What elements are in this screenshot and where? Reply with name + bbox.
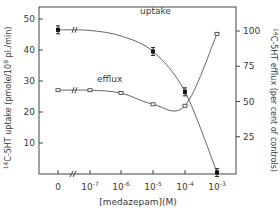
series-line-efflux [58,34,217,111]
y-left-tick-label: 50 [24,14,36,24]
y-left-tick-label: 40 [24,45,36,55]
x-tick-label: 10-3 [208,180,226,192]
series-label-efflux: efflux [97,74,123,84]
axis-ticks: 010-710-610-510-410-31020304050255075100 [24,14,261,192]
y-left-tick-label: 30 [24,76,36,86]
data-point-efflux [183,104,187,107]
y-left-tick-label: 20 [24,107,36,117]
y-right-tick-label: 50 [243,97,255,107]
y-axis-left-label: 14C-5HT uptake (pmole/108 pl./min) [2,27,13,170]
x-tick-label: 10-4 [176,180,194,192]
svg-text:14C-5HT uptake (pmole/108 pl./: 14C-5HT uptake (pmole/108 pl./min) [2,27,13,170]
series-label-uptake: uptake [140,6,171,16]
x-tick-label: 0 [55,182,61,192]
svg-text:14C-5HT efflux (per cent of co: 14C-5HT efflux (per cent of controls) [269,28,280,172]
y-right-tick-label: 75 [243,61,254,71]
y-right-tick-label: 25 [243,132,254,142]
chart: 010-710-610-510-410-31020304050255075100… [0,0,280,210]
x-tick-label: 10-7 [81,180,99,192]
x-tick-label: 10-6 [112,180,130,192]
data-point-uptake [183,90,187,94]
data-point-efflux [88,89,92,92]
series-layer [56,26,219,177]
y-axis-right-label: 14C-5HT efflux (per cent of controls) [269,28,280,172]
data-point-uptake [215,170,219,174]
x-tick-label: 10-5 [144,180,162,192]
series-line-uptake [58,30,217,173]
data-point-efflux [56,89,60,92]
y-left-tick-label: 10 [24,138,36,148]
data-point-efflux [151,103,155,106]
x-axis-label: [medazepam](M) [99,197,177,207]
y-right-tick-label: 100 [243,26,260,36]
data-point-efflux [119,92,123,95]
data-point-uptake [151,50,155,54]
data-point-uptake [56,28,60,32]
data-point-efflux [215,32,219,35]
